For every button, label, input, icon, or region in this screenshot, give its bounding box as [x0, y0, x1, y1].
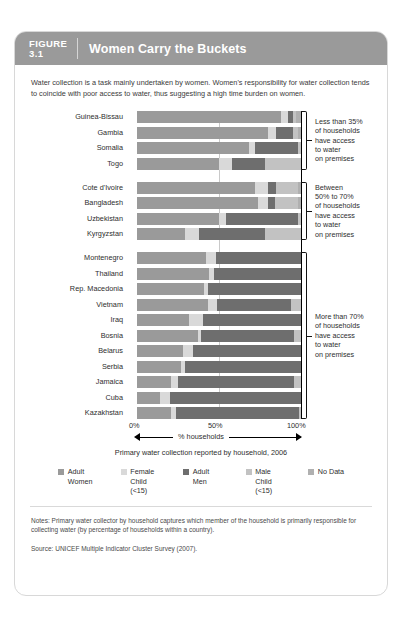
bar-segment — [183, 345, 193, 357]
group-note: Between50% to 70%of householdshave acces… — [315, 183, 388, 239]
bar-segment — [189, 314, 202, 326]
legend-label-line: Child — [130, 477, 170, 487]
bar-segment — [265, 228, 301, 240]
bar-segment — [232, 158, 265, 170]
legend-label-line: Adult — [68, 467, 108, 477]
stacked-bar — [137, 392, 301, 404]
legend-swatch-icon — [246, 469, 252, 475]
group-note-line: Less than 35% — [315, 117, 388, 126]
country-label: Kazakhstan — [15, 407, 123, 419]
group-note-line: to water — [315, 340, 388, 349]
bar-segment — [137, 361, 181, 373]
country-label: Rep. Macedonia — [15, 283, 123, 295]
figure-number: 3.1 — [29, 49, 75, 59]
country-label: Iraq — [15, 314, 123, 326]
bar-segment — [185, 361, 301, 373]
country-label: Uzbekistan — [15, 213, 123, 225]
country-label: Bangladesh — [15, 197, 123, 209]
bar-segment — [137, 142, 249, 154]
group-note: Less than 35%of householdshave accessto … — [315, 117, 388, 164]
country-label: Thailand — [15, 268, 123, 280]
chart-legend: AdultWomenFemaleChild(<15)AdultMenMaleCh… — [15, 467, 387, 496]
bar-segment — [137, 376, 171, 388]
legend-swatch-icon — [308, 469, 314, 475]
country-label: Serbia — [15, 361, 123, 373]
bar-segment — [276, 127, 292, 139]
legend-label-line: Female — [130, 467, 170, 477]
legend-label-line: (<15) — [130, 486, 170, 496]
legend-item: AdultMen — [183, 467, 233, 496]
table-row: Rep. Macedonia — [15, 283, 387, 295]
axis-line — [137, 437, 301, 438]
table-row: Jamaica — [15, 376, 387, 388]
footer-divider — [30, 506, 372, 507]
chart-plot-area: Guinea-BissauGambiaSomaliaTogoCote d'Ivo… — [15, 111, 387, 419]
bar-segment — [137, 252, 206, 264]
country-label: Cuba — [15, 392, 123, 404]
table-row: Montenegro — [15, 252, 387, 264]
stacked-bar — [137, 376, 301, 388]
stacked-bar — [137, 182, 301, 194]
bar-segment — [265, 158, 301, 170]
bar-segment — [201, 330, 294, 342]
table-row: Vietnam — [15, 299, 387, 311]
bar-segment — [137, 213, 219, 225]
legend-label: No Data — [318, 467, 358, 477]
bar-segment — [214, 268, 301, 280]
bar-segment — [137, 283, 204, 295]
bar-segment — [216, 252, 301, 264]
bar-segment — [137, 314, 189, 326]
stacked-bar — [137, 228, 301, 240]
bar-segment — [275, 197, 298, 209]
legend-label: AdultMen — [193, 467, 233, 486]
stacked-bar — [137, 142, 301, 154]
legend-label-line: Adult — [193, 467, 233, 477]
figure-number-block: FIGURE 3.1 — [29, 39, 75, 59]
country-label: Vietnam — [15, 299, 123, 311]
figure-notes: Notes: Primary water collector by househ… — [31, 516, 371, 535]
group-note-line: to water — [315, 220, 388, 229]
legend-item: FemaleChild(<15) — [121, 467, 171, 496]
group-bracket-tick — [307, 140, 312, 141]
chart-axis: 0% 50% 100% % households Primary water c… — [15, 421, 387, 461]
figure-header: FIGURE 3.1 Women Carry the Buckets — [15, 32, 387, 65]
legend-item: MaleChild(<15) — [246, 467, 296, 496]
stacked-bar — [137, 345, 301, 357]
bar-segment — [137, 345, 183, 357]
bar-segment — [203, 314, 301, 326]
legend-label: MaleChild(<15) — [255, 467, 295, 496]
bar-segment — [137, 268, 209, 280]
country-label: Somalia — [15, 142, 123, 154]
country-label: Jamaica — [15, 376, 123, 388]
group-note-line: More than 70% — [315, 312, 388, 321]
figure-number-label: FIGURE — [29, 39, 75, 49]
country-label: Guinea-Bissau — [15, 111, 123, 123]
header-divider — [77, 38, 78, 59]
bar-segment — [137, 127, 268, 139]
stacked-bar — [137, 283, 301, 295]
bar-segment — [137, 228, 185, 240]
stacked-bar — [137, 127, 301, 139]
bar-segment — [199, 228, 265, 240]
table-row: Kazakhstan — [15, 407, 387, 419]
group-note: More than 70%of householdshave accessto … — [315, 312, 388, 359]
bar-segment — [170, 392, 301, 404]
bar-segment — [294, 330, 301, 342]
table-row: Cuba — [15, 392, 387, 404]
group-note-line: on premises — [315, 230, 388, 239]
xtick-0: 0% — [129, 421, 140, 430]
group-bracket-tick — [307, 211, 312, 212]
stacked-bar — [137, 197, 301, 209]
bar-segment — [185, 228, 200, 240]
bar-segment — [137, 299, 208, 311]
stacked-bar — [137, 213, 301, 225]
bar-segment — [206, 252, 216, 264]
country-label: Montenegro — [15, 252, 123, 264]
axis-arrow-right-icon — [296, 433, 302, 441]
country-label: Gambia — [15, 127, 123, 139]
group-note-line: have access — [315, 136, 388, 145]
bar-segment — [226, 213, 298, 225]
legend-item: AdultWomen — [58, 467, 108, 496]
group-note-line: have access — [315, 331, 388, 340]
group-note-line: 50% to 70% — [315, 192, 388, 201]
